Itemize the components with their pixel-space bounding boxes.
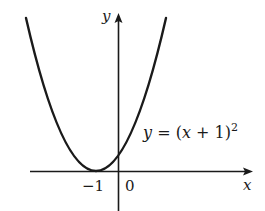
- equation-mid: = (: [152, 123, 182, 142]
- y-axis-label: y: [101, 7, 111, 25]
- equation-label: y = (x + 1)2: [142, 121, 238, 142]
- tick-label-neg1: −1: [82, 177, 104, 195]
- equation-x: x: [182, 123, 191, 142]
- equation-rest: + 1): [191, 123, 231, 142]
- parabola-plot: y x −1 0 y = (x + 1)2: [0, 0, 265, 211]
- parabola-curve: [26, 18, 166, 171]
- tick-label-0: 0: [125, 177, 135, 195]
- equation-exponent: 2: [231, 121, 238, 134]
- x-axis-label: x: [243, 176, 252, 194]
